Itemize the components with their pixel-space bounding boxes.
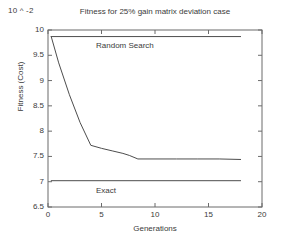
data-series-lines <box>51 37 240 181</box>
plot-canvas <box>0 0 282 242</box>
chart-figure: 10 ^ -2 Fitness for 25% gain matrix devi… <box>0 0 282 242</box>
